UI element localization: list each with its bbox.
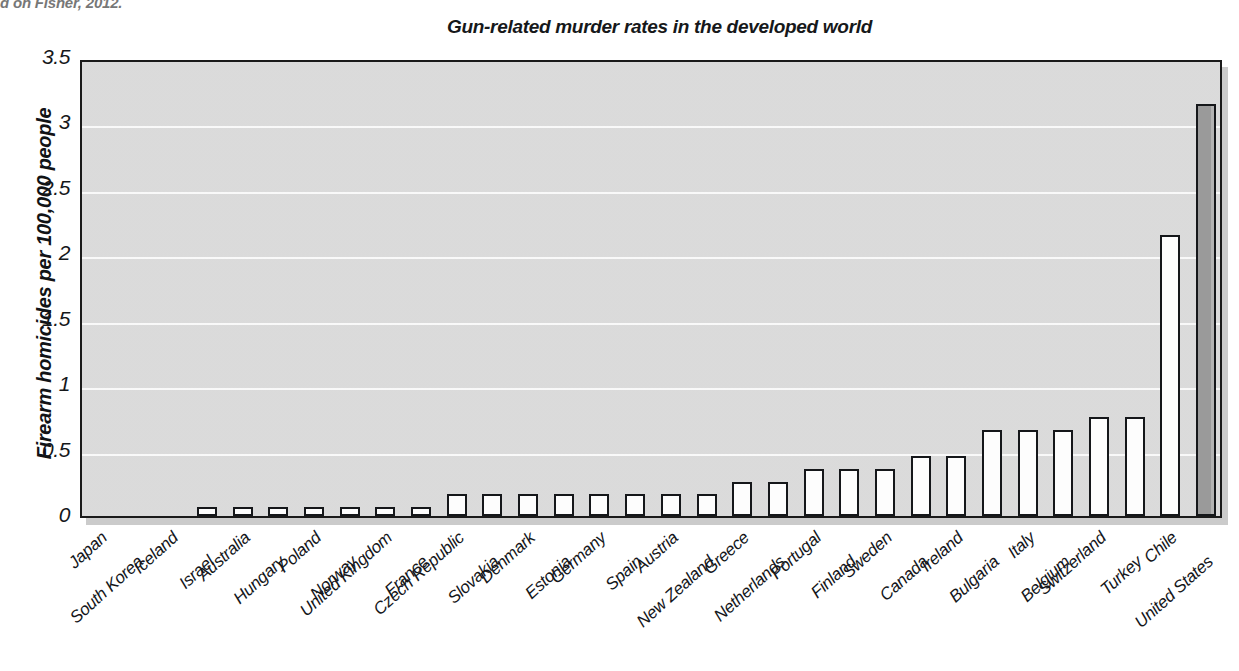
bar [482,494,502,516]
bar [1125,417,1145,516]
bars-layer [82,62,1220,516]
bar [304,507,324,516]
bar [268,507,288,516]
chart-title: Gun-related murder rates in the develope… [0,16,1239,38]
bar [911,456,931,516]
bar [768,482,788,516]
y-tick-label: 0 [0,503,70,527]
plot-area [80,60,1222,518]
bar [1053,430,1073,516]
bar [589,494,609,516]
bar [554,494,574,516]
bar [518,494,538,516]
bar [340,507,360,516]
bar [1018,430,1038,516]
bar [447,494,467,516]
bar [625,494,645,516]
bar [375,507,395,516]
bar [839,469,859,516]
source-caption-fragment: d on Fisher, 2012. [0,0,122,11]
bar [982,430,1002,516]
bar [1089,417,1109,516]
bar [697,494,717,516]
bar [197,507,217,516]
bar [1160,235,1180,516]
bar [1196,104,1216,516]
bar [804,469,824,516]
bar [875,469,895,516]
x-axis-category-labels: JapanSouth KoreaIcelandIsraelAustraliaHu… [80,518,1222,671]
bar [732,482,752,516]
bar [233,507,253,516]
bar [661,494,681,516]
bar [946,456,966,516]
bar [411,507,431,516]
y-axis-title: Firearm homicides per 100,000 people [33,64,56,504]
